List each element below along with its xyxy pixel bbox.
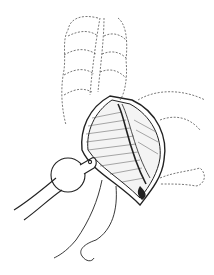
instrument	[14, 158, 96, 220]
surgical-illustration	[0, 0, 214, 275]
suture-threads	[54, 180, 116, 261]
illustration	[0, 0, 214, 275]
